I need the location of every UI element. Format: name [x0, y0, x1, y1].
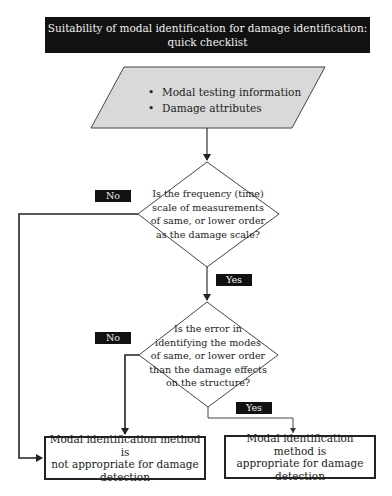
decision1-question: Is the frequency (time) scale of measure…	[143, 187, 273, 241]
decision1-no-label: No	[95, 190, 131, 202]
decision2-yes-label: Yes	[236, 402, 272, 414]
input-list: •Modal testing information •Damage attri…	[148, 84, 301, 116]
input-item: •Modal testing information	[148, 84, 301, 100]
decision1-yes-label: Yes	[216, 274, 252, 286]
flowchart-connectors	[0, 0, 392, 496]
input-item: •Damage attributes	[148, 100, 301, 116]
decision2-question: Is the error in identifying the modes of…	[143, 322, 273, 390]
outcome-appropriate: Modal identification method is appropria…	[224, 435, 376, 479]
decision2-no-label: No	[95, 332, 131, 344]
outcome-not-appropriate: Modal identification method is not appro…	[44, 436, 206, 480]
